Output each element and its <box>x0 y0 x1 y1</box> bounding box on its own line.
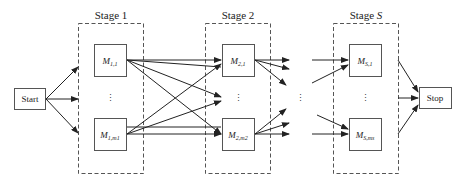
machine-label-2-1: M2,1 <box>231 56 246 67</box>
machine-subscript: 2,m2 <box>236 135 248 141</box>
machine-subscript: S,ms <box>363 135 374 141</box>
machine-name: M <box>100 130 108 140</box>
stage-1-title: Stage 1 <box>95 9 128 21</box>
machine-label-1-1: M1,1 <box>103 56 118 67</box>
machine-subscript: 1,m1 <box>108 135 120 141</box>
machine-label-s-1: MS,1 <box>358 56 373 67</box>
machine-name: M <box>103 56 111 66</box>
between-stages-ellipsis: ⋮ <box>296 97 305 100</box>
stage-2-title-text: Stage 2 <box>222 9 255 21</box>
stage-s-title-prefix: Stage <box>350 9 377 21</box>
stop-label: Stop <box>427 93 444 103</box>
machine-label-1-m1: M1,m1 <box>100 130 119 141</box>
machine-name: M <box>228 130 236 140</box>
flow-diagram: Stage 1 Stage 2 Stage S Start Stop M1,1 … <box>0 0 466 182</box>
machine-label-s-ms: MS,ms <box>356 130 375 141</box>
machine-name: M <box>358 56 366 66</box>
stage-2-ellipsis: ⋮ <box>234 97 243 100</box>
machine-subscript: 2,1 <box>238 61 246 67</box>
stage-1-ellipsis: ⋮ <box>106 97 115 100</box>
machine-name: M <box>356 130 364 140</box>
start-label: Start <box>22 94 39 104</box>
machine-subscript: S,1 <box>365 61 373 67</box>
machine-name: M <box>231 56 239 66</box>
stage-1-title-text: Stage 1 <box>95 9 128 21</box>
diagram-lines <box>0 0 466 182</box>
stage-s-ellipsis: ⋮ <box>361 97 370 100</box>
stage-s-title-index: S <box>377 9 383 21</box>
machine-label-2-m2: M2,m2 <box>228 130 247 141</box>
machine-subscript: 1,1 <box>110 61 118 67</box>
stage-2-title: Stage 2 <box>222 9 255 21</box>
stage-s-title: Stage S <box>350 9 383 21</box>
